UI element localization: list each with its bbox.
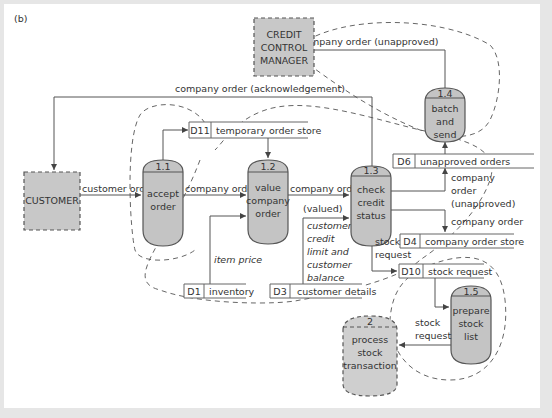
svg-text:request: request [375,249,411,260]
svg-text:stock: stock [415,317,441,328]
svg-text:value: value [255,182,281,193]
svg-text:stock: stock [375,236,401,247]
svg-text:D4: D4 [403,236,416,247]
store-d6: D6 unapproved orders [393,154,534,168]
flow-label-unapproved: company order (unapproved) [299,36,439,47]
flow-label-company-order-1: company order [185,183,257,194]
flow-to-d6 [391,168,445,191]
svg-text:unapproved orders: unapproved orders [420,156,510,167]
store-d4: D4 company order store [400,234,524,248]
entity-ccm-line1: CREDIT [266,29,301,40]
svg-text:customer: customer [307,220,353,231]
svg-text:D1: D1 [187,286,200,297]
svg-text:status: status [356,210,385,221]
svg-text:customer details: customer details [297,286,376,297]
svg-text:temporary order store: temporary order store [216,125,321,136]
svg-text:stock: stock [458,318,484,329]
svg-text:1.2: 1.2 [260,161,275,172]
svg-text:transaction: transaction [343,360,397,371]
svg-text:and: and [436,116,454,127]
entity-customer-label: CUSTOMER [25,195,79,206]
svg-text:D6: D6 [397,156,410,167]
flow-label-item-price: item price [214,254,262,265]
store-d3: D3 customer details [270,284,376,298]
process-1-4: 1.4 batch and send [425,88,465,142]
svg-text:balance: balance [307,272,345,283]
flow-to-d4 [391,210,445,232]
flow-item-price [210,216,246,284]
svg-text:2: 2 [367,316,373,327]
svg-text:order: order [451,185,476,196]
svg-text:stock request: stock request [428,266,493,277]
svg-text:(valued): (valued) [303,203,342,214]
svg-text:batch: batch [432,103,459,114]
svg-text:send: send [434,129,457,140]
svg-text:order: order [150,201,175,212]
svg-text:prepare: prepare [453,305,490,316]
svg-text:customer: customer [307,259,353,270]
svg-text:1.1: 1.1 [155,161,170,172]
svg-text:company order store: company order store [425,236,524,247]
svg-text:stock: stock [357,347,383,358]
svg-text:inventory: inventory [209,286,255,297]
svg-text:request: request [415,330,451,341]
entity-ccm-line2: CONTROL [261,42,308,53]
process-1-3: 1.3 check credit status [351,165,391,246]
process-1-2: 1.2 value company order [246,160,290,244]
store-d11: D11 temporary order store [189,122,321,138]
svg-text:limit and: limit and [307,246,350,257]
svg-text:company: company [451,172,495,183]
svg-text:(unapproved): (unapproved) [451,198,515,209]
svg-text:check: check [357,184,385,195]
store-d10: D10 stock request [399,264,493,278]
process-1-1: 1.1 accept order [143,160,183,246]
svg-text:D10: D10 [401,266,420,277]
entity-ccm-line3: MANAGER [260,55,308,66]
svg-text:1.3: 1.3 [363,165,378,176]
flow-d10-to-1-5 [435,278,449,307]
process-1-5: 1.5 prepare stock list [451,286,491,364]
svg-text:company: company [246,195,290,206]
svg-text:company order: company order [451,216,523,227]
svg-text:process: process [352,334,389,345]
svg-text:list: list [464,331,478,342]
svg-text:1.4: 1.4 [437,88,452,99]
svg-text:credit: credit [357,197,384,208]
figure-label: (b) [14,13,27,24]
store-d1: D1 inventory [184,284,255,298]
svg-text:D11: D11 [190,125,209,136]
process-2: 2 process stock transaction [343,316,397,396]
svg-text:D3: D3 [273,286,286,297]
svg-text:credit: credit [307,233,336,244]
flow-label-ack: company order (acknowledgement) [175,83,345,94]
svg-text:accept: accept [147,188,179,199]
svg-text:1.5: 1.5 [463,286,478,297]
data-flow-diagram: (b) company order (acknowledgement) comp… [0,0,552,418]
svg-text:order: order [255,208,280,219]
flow-to-d11 [163,130,188,160]
